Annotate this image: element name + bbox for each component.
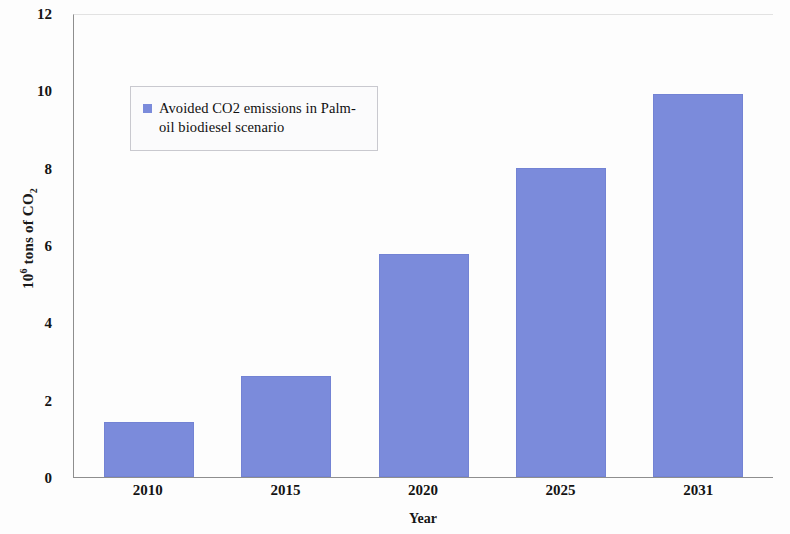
bar-slot bbox=[355, 15, 492, 477]
bar bbox=[241, 376, 331, 477]
y-axis-tick-label: 6 bbox=[8, 238, 52, 255]
bar-slot bbox=[492, 15, 629, 477]
bars-layer bbox=[74, 15, 773, 477]
x-axis-title: Year bbox=[73, 511, 773, 527]
bar bbox=[516, 168, 606, 477]
x-axis-tick-label: 2015 bbox=[217, 482, 355, 499]
bar-chart: 106 tons of CO2 121086420 20102015202020… bbox=[0, 0, 790, 534]
x-axis-tick-labels: 20102015202020252031 bbox=[73, 482, 773, 499]
bar-slot bbox=[630, 15, 767, 477]
plot-area bbox=[73, 14, 773, 478]
bar bbox=[379, 254, 469, 477]
x-axis-tick-label: 2025 bbox=[492, 482, 630, 499]
x-axis-tick-label: 2031 bbox=[629, 482, 767, 499]
y-axis-tick-label: 12 bbox=[8, 6, 52, 23]
bar bbox=[104, 422, 194, 477]
bar bbox=[653, 94, 743, 477]
bar-slot bbox=[80, 15, 217, 477]
bar-slot bbox=[217, 15, 354, 477]
y-axis-tick-label: 0 bbox=[8, 470, 52, 487]
y-axis-tick-label: 10 bbox=[8, 83, 52, 100]
y-axis-tick-label: 8 bbox=[8, 160, 52, 177]
y-axis-tick-label: 2 bbox=[8, 392, 52, 409]
y-axis-tick-labels: 121086420 bbox=[0, 0, 62, 534]
x-axis-tick-label: 2020 bbox=[354, 482, 492, 499]
legend-swatch-icon bbox=[143, 104, 152, 113]
x-axis-tick-label: 2010 bbox=[79, 482, 217, 499]
legend: Avoided CO2 emissions in Palm-oil biodie… bbox=[130, 86, 378, 151]
legend-item-label: Avoided CO2 emissions in Palm-oil biodie… bbox=[159, 99, 367, 136]
y-axis-tick-label: 4 bbox=[8, 315, 52, 332]
